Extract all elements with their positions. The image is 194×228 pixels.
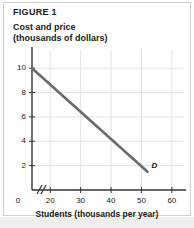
curve-label-d: D xyxy=(152,161,158,170)
x-axis-title: Students (thousands per year) xyxy=(0,209,194,219)
y-tick-label: 2 xyxy=(12,161,26,170)
x-tick-label: 20 xyxy=(41,196,59,205)
x-tick-label: 50 xyxy=(132,196,150,205)
demand-curve xyxy=(32,68,148,172)
x-tick-label: 60 xyxy=(163,196,181,205)
figure-container: FIGURE 1 Cost and price (thousands of do… xyxy=(0,0,194,228)
x-origin-label: 0 xyxy=(9,196,27,205)
y-tick-label: 8 xyxy=(12,88,26,97)
y-tick-label: 4 xyxy=(12,136,26,145)
y-tick-label: 6 xyxy=(12,112,26,121)
chart-plot xyxy=(0,0,194,228)
x-tick-label: 40 xyxy=(102,196,120,205)
x-tick-label: 30 xyxy=(72,196,90,205)
gridlines xyxy=(32,50,184,190)
y-tick-label: 10 xyxy=(12,63,26,72)
